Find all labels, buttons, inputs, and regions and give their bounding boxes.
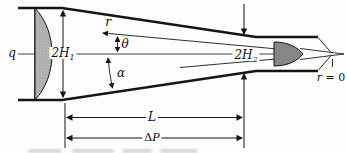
label-r-equals-0: r = 0	[317, 72, 345, 83]
alpha-marker	[108, 58, 113, 88]
label-theta: θ	[121, 38, 128, 50]
label-q: q	[8, 47, 16, 59]
diagram-canvas	[0, 0, 347, 153]
label-alpha: α	[115, 67, 127, 79]
caption-fragment	[160, 149, 198, 153]
caption-fragment	[28, 149, 62, 153]
caption-fragment	[122, 149, 152, 153]
label-2h1: 2H1	[49, 47, 76, 59]
label-2h2: 2H2	[232, 49, 259, 61]
outlet-velocity-profile	[274, 42, 303, 66]
caption-fragment	[72, 149, 114, 153]
label-r: r	[105, 16, 111, 28]
focus-spindle	[300, 49, 344, 60]
label-delta-p: ΔP	[142, 132, 161, 143]
label-L: L	[146, 111, 158, 123]
figure-diagram: q 2H1 r θ α 2H2 r = 0 L ΔP	[0, 0, 347, 153]
